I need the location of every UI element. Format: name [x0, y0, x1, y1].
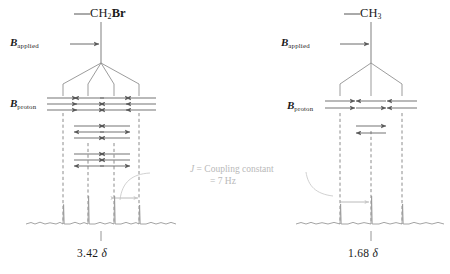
chemical-shift-left: 3.42 δ	[77, 248, 107, 260]
spectrum-left	[26, 196, 176, 241]
coupling-constant-text: = Coupling constant	[194, 164, 274, 174]
formula-right-base: CH	[360, 6, 378, 20]
j-leader-left	[120, 173, 150, 200]
b-proton-sub-left: proton	[17, 103, 36, 110]
spin-arrows-right-col1	[325, 101, 355, 108]
chemical-shift-value-left: 3.42	[77, 247, 98, 259]
nmr-splitting-figure: CH2Br Bapplied Bproton 3.42 δ CH3 Bappli…	[0, 0, 450, 274]
spin-arrows-left-col2	[74, 98, 104, 166]
coupling-constant-annotation: J = Coupling constant	[190, 165, 274, 175]
coupling-constant-value-text: = 7 Hz	[210, 176, 236, 186]
formula-right-sub: 3	[378, 12, 382, 21]
formula-left-suffix: Br	[112, 6, 126, 20]
figure-canvas	[0, 0, 450, 274]
formula-right: CH3	[360, 7, 382, 21]
spectrum-right	[296, 196, 444, 241]
chemical-shift-unit-right: δ	[373, 247, 379, 259]
b-applied-sub-left: applied	[17, 42, 38, 49]
dashed-guides-left	[63, 113, 139, 224]
splitting-tree-left	[63, 63, 139, 96]
spin-arrows-left-col1	[47, 98, 77, 110]
b-applied-label-left: Bapplied	[10, 37, 39, 50]
chemical-shift-value-right: 1.68	[348, 247, 369, 259]
coupling-constant-value: = 7 Hz	[210, 177, 236, 187]
chemical-shift-right: 1.68 δ	[348, 248, 378, 260]
b-proton-sub-right: proton	[294, 105, 313, 112]
formula-left-base: CH	[90, 6, 108, 20]
spin-arrows-right-col2	[356, 101, 386, 133]
spin-arrows-left-col3	[100, 98, 130, 166]
spin-arrows-left-col4	[126, 98, 156, 110]
panel-right	[296, 14, 444, 241]
formula-left: CH2Br	[90, 7, 126, 21]
j-leader-right	[306, 172, 333, 196]
chemical-shift-unit-left: δ	[102, 247, 108, 259]
b-applied-sub-right: applied	[288, 42, 309, 49]
b-proton-label-left: Bproton	[10, 98, 36, 111]
splitting-tree-right	[340, 63, 402, 96]
b-applied-label-right: Bapplied	[281, 37, 310, 50]
spin-arrows-right-col3	[387, 101, 417, 108]
panel-left	[26, 14, 176, 241]
b-proton-label-right: Bproton	[287, 100, 313, 113]
